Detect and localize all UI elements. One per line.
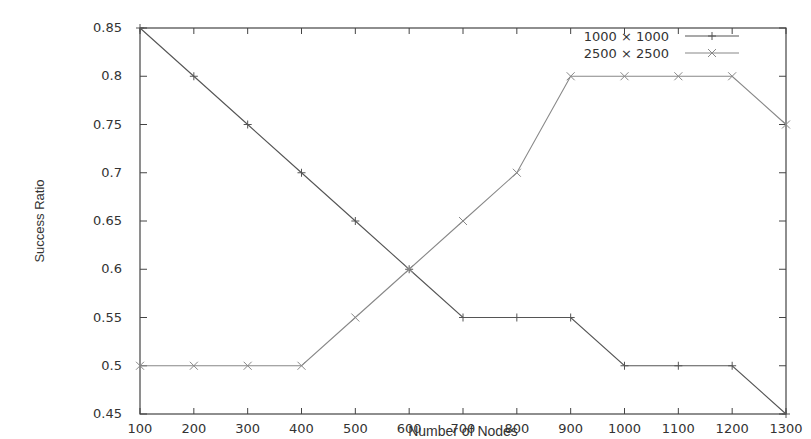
x-tick-label: 300 — [235, 421, 260, 436]
y-tick-label: 0.6 — [101, 261, 122, 276]
x-tick-label: 400 — [289, 421, 314, 436]
x-tick-label: 200 — [181, 421, 206, 436]
y-tick-label: 0.5 — [101, 358, 122, 373]
x-axis: 1002003004005006007008009001000110012001… — [128, 28, 803, 436]
x-tick-label: 1300 — [769, 421, 802, 436]
y-axis-title: Success Ratio — [32, 179, 47, 262]
y-tick-label: 0.7 — [101, 165, 122, 180]
x-tick-label: 1100 — [662, 421, 695, 436]
y-tick-label: 0.85 — [93, 20, 122, 35]
x-tick-label: 900 — [558, 421, 583, 436]
series-2 — [136, 72, 790, 370]
legend-label: 1000 × 1000 — [584, 29, 669, 44]
legend: 1000 × 10002500 × 2500 — [584, 29, 739, 61]
y-tick-label: 0.55 — [93, 310, 122, 325]
x-tick-label: 100 — [128, 421, 153, 436]
x-tick-label: 1200 — [716, 421, 749, 436]
legend-label: 2500 × 2500 — [584, 46, 669, 61]
x-tick-label: 1000 — [608, 421, 641, 436]
y-tick-label: 0.8 — [101, 68, 122, 83]
x-axis-title: Number of Nodes — [408, 423, 518, 439]
y-tick-label: 0.75 — [93, 117, 122, 132]
line-chart: 0.450.50.550.60.650.70.750.80.85 1002003… — [0, 0, 811, 439]
series-layer — [136, 24, 790, 418]
x-tick-label: 500 — [343, 421, 368, 436]
y-tick-label: 0.65 — [93, 213, 122, 228]
y-tick-label: 0.45 — [93, 406, 122, 421]
